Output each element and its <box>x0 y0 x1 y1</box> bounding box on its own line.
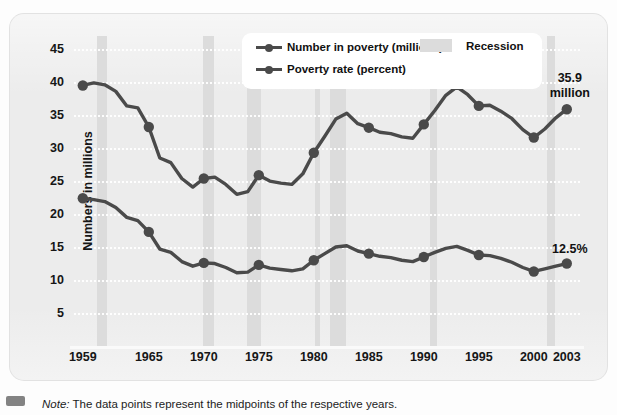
series-data-point <box>254 260 264 270</box>
footnote-label: Note: <box>42 398 70 410</box>
x-axis-tick-label: 1985 <box>355 350 383 364</box>
series-data-point <box>309 255 319 265</box>
legend-item-poverty-rate: Poverty rate (percent) <box>256 63 406 75</box>
legend-item-recession: Recession <box>420 39 524 52</box>
x-axis-tick-label: 1975 <box>245 350 273 364</box>
series-data-point <box>474 101 484 111</box>
legend-line-marker-icon <box>256 68 282 71</box>
series-data-point <box>364 122 374 132</box>
series-data-point <box>562 258 572 268</box>
x-axis-line <box>70 346 584 349</box>
legend-label-recession: Recession <box>466 40 524 52</box>
series-data-point <box>364 248 374 258</box>
chart-plot-area: 45403530252015105 1959196519701975198019… <box>74 36 580 346</box>
series-data-point <box>78 193 88 203</box>
y-axis-tick-label: 45 <box>22 42 74 56</box>
page-corner-mark <box>6 396 25 406</box>
series-data-point <box>144 227 154 237</box>
series-line <box>83 198 567 273</box>
series-data-point <box>562 104 572 114</box>
x-axis-tick-label: 1970 <box>190 350 218 364</box>
x-axis-tick-label: 1965 <box>135 350 163 364</box>
y-axis-tick-label: 5 <box>22 306 74 320</box>
y-axis-tick-label: 15 <box>22 240 74 254</box>
legend-item-number-in-poverty: Number in poverty (millions) <box>256 41 443 53</box>
series-data-point <box>419 252 429 262</box>
poverty-rate-endpoint: 12.5% <box>541 242 599 257</box>
x-axis-tick-label: 2000 <box>520 350 548 364</box>
series-data-point <box>529 132 539 142</box>
y-axis-tick-label: 25 <box>22 174 74 188</box>
y-axis-tick-label: 20 <box>22 207 74 221</box>
series-data-point <box>254 170 264 180</box>
legend-label-poverty-rate: Poverty rate (percent) <box>287 63 406 75</box>
x-axis-tick-label: 1980 <box>300 350 328 364</box>
series-data-point <box>419 119 429 129</box>
legend-line-marker-icon <box>256 46 282 49</box>
series-data-point <box>199 258 209 268</box>
chart-footnote: Note: The data points represent the midp… <box>42 398 397 410</box>
series-data-point <box>309 148 319 158</box>
x-axis-tick-label: 2003 <box>553 350 581 364</box>
chart-legend: Number in poverty (millions) Poverty rat… <box>242 33 542 89</box>
series-data-point <box>199 173 209 183</box>
x-axis-tick-label: 1995 <box>465 350 493 364</box>
series-line <box>83 83 567 194</box>
series-data-point <box>529 266 539 276</box>
y-axis-tick-label: 35 <box>22 108 74 122</box>
series-data-point <box>144 122 154 132</box>
poverty-number-endpoint: 35.9million <box>541 71 599 101</box>
chart-figure-panel: 45403530252015105 1959196519701975198019… <box>10 14 607 380</box>
series-data-point <box>474 250 484 260</box>
y-axis-tick-label: 40 <box>22 75 74 89</box>
series-data-point <box>78 80 88 90</box>
x-axis-tick-label: 1990 <box>410 350 438 364</box>
x-axis-tick-label: 1959 <box>69 350 97 364</box>
footnote-text: The data points represent the midpoints … <box>70 398 398 410</box>
y-axis-tick-label: 30 <box>22 141 74 155</box>
recession-swatch-icon <box>420 39 452 52</box>
y-axis-tick-label: 10 <box>22 273 74 287</box>
